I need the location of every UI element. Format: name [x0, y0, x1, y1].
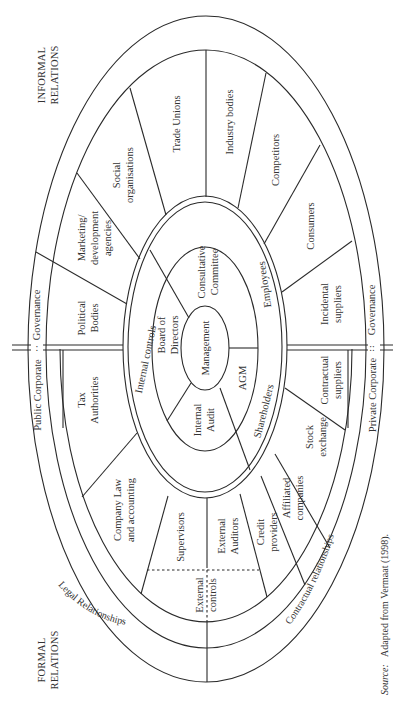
- svg-text:Social: Social: [111, 162, 122, 188]
- informal-relations-label: INFORMAL RELATIONS: [36, 46, 60, 105]
- segment-tax-authorities: Tax Authorities: [76, 376, 100, 423]
- segment-contractual-suppliers: Contractual suppliers: [319, 355, 343, 404]
- svg-text:and accounting: and accounting: [125, 477, 136, 542]
- core-board-of-directors: Board of Directors: [156, 315, 180, 354]
- svg-text:companies: companies: [294, 476, 305, 521]
- svg-text:Internal: Internal: [192, 404, 203, 437]
- private-corporate-label: Private Corporate: [367, 357, 378, 432]
- svg-text:Stock: Stock: [304, 424, 315, 449]
- svg-text:controls: controls: [207, 578, 218, 612]
- svg-text:Company Law: Company Law: [112, 479, 123, 542]
- segment-stock-exchange: Stock exchange: [304, 417, 328, 457]
- ring-shareholders: Shareholders: [252, 383, 276, 439]
- svg-text:Board of: Board of: [156, 316, 167, 354]
- svg-text:development: development: [89, 211, 100, 265]
- svg-text:providers: providers: [268, 512, 279, 552]
- ring-employees: Employees: [256, 261, 273, 309]
- svg-text:RELATIONS: RELATIONS: [49, 631, 60, 690]
- svg-text:RELATIONS: RELATIONS: [49, 46, 60, 105]
- segment-credit-providers: Credit providers: [255, 512, 279, 552]
- governance-relations-diagram: : :: INFORMAL RELATIONS: [0, 0, 410, 703]
- segment-social-organisations: Social organisations: [111, 147, 135, 203]
- core-consultative-committee: Consultative Committee: [196, 245, 220, 298]
- public-corporate-label: Public Corporate: [32, 359, 43, 431]
- svg-text:Auditors: Auditors: [229, 518, 240, 555]
- svg-text:Incidental: Incidental: [319, 283, 330, 325]
- svg-text:External: External: [194, 577, 205, 613]
- legal-relationships-label: Legal Relationships: [57, 579, 127, 627]
- svg-text:Adapted from Vermaat (1998).: Adapted from Vermaat (1998).: [379, 534, 391, 657]
- informal-spokes: [36, 50, 352, 304]
- svg-text:suppliers: suppliers: [332, 361, 343, 399]
- segment-industry-bodies: Industry bodies: [224, 89, 235, 154]
- private-colon: ::: [369, 342, 375, 353]
- core-internal-audit: Internal Audit: [192, 404, 216, 437]
- segment-external-auditors: External Auditors: [216, 518, 240, 555]
- svg-text:agencies: agencies: [102, 220, 113, 256]
- segment-competitors: Competitors: [270, 134, 281, 186]
- segment-marketing-agencies: Marketing/ development agencies: [76, 211, 113, 265]
- svg-text:suppliers: suppliers: [332, 285, 343, 323]
- segment-supervisors: Supervisors: [175, 512, 186, 562]
- svg-text:Committee: Committee: [209, 248, 220, 295]
- private-governance-label: Governance: [366, 284, 377, 335]
- svg-text:organisations: organisations: [124, 147, 135, 203]
- svg-text:Audit: Audit: [205, 408, 216, 432]
- svg-text:Political: Political: [76, 300, 87, 335]
- svg-text:Affiliated: Affiliated: [281, 477, 292, 518]
- segment-political-bodies: Political Bodies: [76, 300, 100, 335]
- core-agm: AGM: [237, 365, 248, 390]
- segment-external-controls: External controls: [194, 577, 218, 613]
- segment-incidental-suppliers: Incidental suppliers: [319, 283, 343, 325]
- center-management: Management: [200, 321, 211, 376]
- formal-relations-label: FORMAL RELATIONS: [36, 631, 60, 690]
- source-note: Source: Adapted from Vermaat (1998).: [379, 534, 391, 695]
- svg-text:Contractual: Contractual: [319, 355, 330, 404]
- svg-text:Tax: Tax: [76, 391, 87, 407]
- svg-text:INFORMAL: INFORMAL: [36, 47, 47, 103]
- segment-affiliated-companies: Affiliated companies: [281, 476, 305, 521]
- contractual-relationships-label: Contractual relationships: [283, 532, 336, 626]
- ring-internal-controls: Internal controls: [133, 324, 158, 394]
- svg-text:Marketing/: Marketing/: [76, 215, 87, 262]
- public-governance-label: Governance: [31, 289, 42, 340]
- svg-text:exchange: exchange: [317, 417, 328, 457]
- svg-text:Consultative: Consultative: [196, 245, 207, 298]
- svg-text:Credit: Credit: [255, 519, 266, 545]
- segment-company-law: Company Law and accounting: [112, 477, 136, 542]
- svg-text:Source:: Source:: [379, 664, 390, 695]
- svg-text:Authorities: Authorities: [89, 376, 100, 423]
- svg-text:Bodies: Bodies: [89, 303, 100, 332]
- svg-text:Directors: Directors: [169, 315, 180, 354]
- svg-text:FORMAL: FORMAL: [36, 638, 47, 683]
- svg-text:External: External: [216, 518, 227, 554]
- segment-consumers: Consumers: [305, 202, 316, 249]
- segment-trade-unions: Trade Unions: [171, 95, 182, 152]
- public-colon: :: [36, 342, 39, 353]
